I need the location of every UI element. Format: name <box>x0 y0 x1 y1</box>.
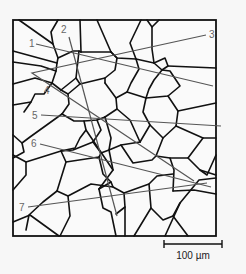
label-6: 6 <box>31 138 37 149</box>
label-5: 5 <box>32 110 38 121</box>
label-2: 2 <box>61 24 67 35</box>
label-7: 7 <box>19 202 25 213</box>
label-3: 3 <box>209 29 215 40</box>
scale-bar: 100 µm <box>164 240 222 261</box>
scale-bar-label: 100 µm <box>176 250 210 261</box>
grain-micrograph-diagram: 1 2 3 4 5 6 7 100 µm <box>0 0 246 274</box>
label-4: 4 <box>44 85 50 96</box>
label-1: 1 <box>29 38 35 49</box>
